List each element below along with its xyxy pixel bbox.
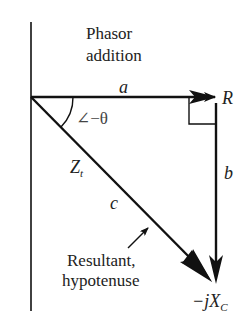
label-Zt-sub: t [80, 167, 84, 179]
label-jXc: −jXC [192, 291, 228, 313]
label-R: R [221, 88, 233, 108]
label-angle: ∠−θ [76, 109, 108, 128]
angle-arc [61, 97, 73, 127]
note-line-1: Resultant, [67, 251, 135, 270]
pointer-arrow [128, 228, 148, 248]
label-a: a [119, 77, 128, 97]
phasor-diagram: Phasor addition a R ∠−θ b c Zt −jXC Resu… [0, 0, 251, 320]
note-line-2: hypotenuse [62, 271, 139, 290]
label-jXc-main: −jX [192, 291, 221, 311]
label-jXc-sub: C [220, 301, 228, 313]
hypotenuse-c-arrow [31, 97, 200, 268]
title-line-2: addition [86, 46, 142, 65]
label-b: b [224, 163, 233, 183]
label-Zt: Zt [70, 157, 84, 179]
label-c: c [110, 193, 118, 213]
title-line-1: Phasor [86, 24, 133, 43]
